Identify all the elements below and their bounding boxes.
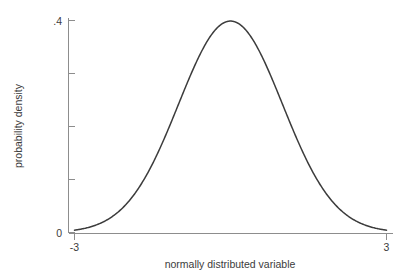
y-axis-title: probability density bbox=[12, 83, 24, 168]
x-tick-label-max: 3 bbox=[384, 241, 390, 253]
y-tick-label-max: .4 bbox=[53, 15, 62, 27]
normal-distribution-chart: .4 0 -3 3 normally distributed variable … bbox=[0, 0, 407, 280]
x-axis-title: normally distributed variable bbox=[165, 258, 296, 270]
x-tick-label-min: -3 bbox=[70, 241, 79, 253]
y-tick-label-min: 0 bbox=[56, 227, 62, 239]
plot-svg: .4 0 -3 3 normally distributed variable … bbox=[0, 0, 407, 280]
